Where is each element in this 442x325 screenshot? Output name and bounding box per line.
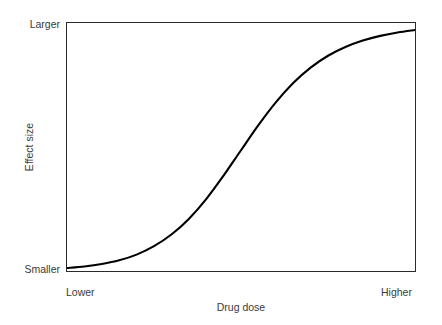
dose-response-curve-svg [67,23,415,271]
x-axis-label: Drug dose [66,301,416,313]
y-tick-label-larger: Larger [30,19,60,30]
y-axis-label: Effect size [22,22,36,272]
dose-response-chart-figure: Effect size Larger Smaller Lower Higher … [0,0,442,325]
y-tick-label-smaller: Smaller [24,264,60,275]
plot-area [66,22,416,272]
dose-response-curve [67,30,415,268]
x-tick-label-lower: Lower [66,287,95,298]
x-tick-label-higher: Higher [381,287,412,298]
